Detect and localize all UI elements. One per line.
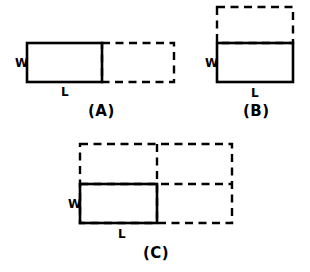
panel-c-width-label: W [68, 197, 81, 211]
panel-a-solid-rectangle [27, 43, 102, 82]
panel-c-length-label: L [118, 227, 126, 241]
panel-b-solid-rectangle [217, 43, 293, 82]
diagram-canvas: W L (A) W L (B) W L (C) [0, 0, 310, 272]
panel-c-solid-rectangle [80, 184, 157, 223]
panel-c: W L (C) [68, 144, 232, 262]
panel-b-dashed-copy-1 [217, 7, 293, 43]
figure-container: W L (A) W L (B) W L (C) [0, 0, 310, 272]
panel-a: W L (A) [15, 43, 174, 120]
panel-b: W L (B) [205, 7, 293, 120]
panel-a-length-label: L [61, 85, 69, 99]
panel-b-caption: (B) [243, 102, 270, 120]
panel-a-dashed-copy-1 [102, 43, 174, 82]
panel-a-width-label: W [15, 56, 28, 70]
panel-b-width-label: W [205, 56, 218, 70]
panel-b-length-label: L [251, 86, 259, 100]
panel-a-caption: (A) [88, 102, 115, 120]
panel-c-caption: (C) [143, 244, 169, 262]
